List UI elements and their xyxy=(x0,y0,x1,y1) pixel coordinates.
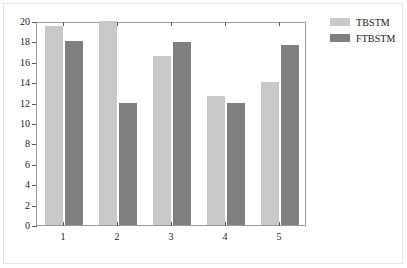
x-axis-tick xyxy=(279,222,280,226)
bar-ftbstm-3 xyxy=(173,42,191,225)
bars-layer xyxy=(37,23,305,225)
bar-ftbstm-1 xyxy=(65,41,83,225)
y-axis-tick xyxy=(32,226,37,227)
y-axis-tick-label: 0 xyxy=(2,221,30,231)
y-axis-tick-label: 12 xyxy=(2,99,30,109)
legend-label-tbstm: TBSTM xyxy=(356,17,390,28)
x-axis-tick-top xyxy=(117,22,118,26)
y-axis-tick-label: 8 xyxy=(2,139,30,149)
legend-swatch-ftbstm xyxy=(330,34,350,42)
y-axis-tick-label: 2 xyxy=(2,201,30,211)
x-axis-tick xyxy=(171,222,172,226)
bar-tbstm-1 xyxy=(45,26,63,225)
bar-ftbstm-5 xyxy=(281,45,299,225)
y-axis-tick-label: 6 xyxy=(2,160,30,170)
y-axis-tick-label: 16 xyxy=(2,58,30,68)
bar-ftbstm-2 xyxy=(119,103,137,225)
legend-label-ftbstm: FTBSTM xyxy=(356,33,396,44)
x-axis-tick-label: 3 xyxy=(161,231,181,242)
bar-tbstm-3 xyxy=(153,56,171,225)
y-axis-tick-label: 18 xyxy=(2,37,30,47)
x-axis-tick-top xyxy=(279,22,280,26)
x-axis-tick-top xyxy=(225,22,226,26)
bar-ftbstm-4 xyxy=(227,103,245,225)
plot-area xyxy=(36,22,306,226)
x-axis-tick-top xyxy=(63,22,64,26)
y-axis-tick-label: 20 xyxy=(2,17,30,27)
x-axis-tick xyxy=(225,222,226,226)
bar-chart-figure: 02468101214161820 12345 TBSTM FTBSTM xyxy=(0,0,407,268)
y-axis-tick-label: 14 xyxy=(2,78,30,88)
bar-tbstm-4 xyxy=(207,96,225,225)
y-axis-tick-label: 4 xyxy=(2,180,30,190)
x-axis-tick xyxy=(63,222,64,226)
bar-tbstm-5 xyxy=(261,82,279,225)
legend-item-tbstm: TBSTM xyxy=(330,15,404,29)
x-axis-tick-label: 1 xyxy=(53,231,73,242)
x-axis-tick-label: 5 xyxy=(269,231,289,242)
y-axis-tick-label: 10 xyxy=(2,119,30,129)
legend-item-ftbstm: FTBSTM xyxy=(330,31,404,45)
chart-legend: TBSTM FTBSTM xyxy=(330,15,404,47)
legend-swatch-tbstm xyxy=(330,18,350,26)
x-axis-tick xyxy=(117,222,118,226)
x-axis-tick-top xyxy=(171,22,172,26)
bar-tbstm-2 xyxy=(99,21,117,225)
x-axis-tick-label: 2 xyxy=(107,231,127,242)
x-axis-tick-label: 4 xyxy=(215,231,235,242)
